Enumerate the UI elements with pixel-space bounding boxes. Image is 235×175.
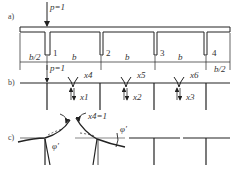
girder-label-1: 1 — [53, 49, 58, 58]
shear-label-x2: x2 — [133, 93, 142, 102]
rotation-label-left: φ' — [52, 142, 59, 151]
dimension-label-b-1: b — [72, 53, 77, 62]
girder-label-4: 4 — [212, 49, 217, 58]
dimension-label-b-half-left: b/2 — [29, 53, 41, 62]
load-label-b: p=1 — [50, 64, 65, 73]
girder-label-2: 2 — [106, 49, 111, 58]
shear-label-x3: x3 — [186, 93, 195, 102]
rotation-label-right: φ' — [120, 125, 127, 134]
load-label-a: p=1 — [50, 3, 65, 12]
dimension-label-b-3: b — [178, 53, 183, 62]
moment-label-x6: x6 — [190, 71, 199, 80]
panel-label-b: b) — [8, 79, 15, 87]
shear-label-x1: x1 — [80, 93, 89, 102]
moment-label-x5: x5 — [137, 71, 146, 80]
moment-label-x4: x4 — [84, 71, 93, 80]
girder-label-3: 3 — [160, 49, 165, 58]
dimension-label-b-half-right: b/2 — [214, 65, 226, 74]
dimension-label-b-2: b — [125, 53, 130, 62]
panel-c-deformation — [18, 113, 230, 165]
diagram-canvas — [0, 0, 235, 175]
unit-moment-label: x4=1 — [88, 112, 107, 121]
panel-label-c: c) — [8, 134, 14, 142]
panel-label-a: a) — [8, 13, 14, 21]
